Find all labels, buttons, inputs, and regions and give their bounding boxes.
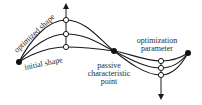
left-end-point-icon: [16, 59, 22, 65]
optimization-parameter-label-line2: parameter: [141, 44, 173, 53]
right-end-point-icon: [185, 50, 191, 56]
passive-point-icon: [111, 48, 117, 54]
diagram-canvas: optimized shape initial shape passive ch…: [0, 0, 202, 105]
passive-point-label-line3: point: [101, 77, 118, 86]
control-point-open-icon: [158, 72, 163, 77]
upper-control-points: [63, 17, 68, 49]
control-point-open-icon: [63, 31, 68, 36]
lower-control-points: [158, 58, 163, 77]
shape-optimization-diagram: optimized shape initial shape passive ch…: [0, 0, 202, 105]
optimized-shape-label: optimized shape: [12, 12, 57, 54]
control-point-open-icon: [158, 65, 163, 70]
initial-shape-label: initial shape: [24, 55, 64, 72]
control-point-open-icon: [158, 58, 163, 63]
control-point-open-icon: [63, 17, 68, 22]
control-point-open-icon: [63, 44, 68, 49]
